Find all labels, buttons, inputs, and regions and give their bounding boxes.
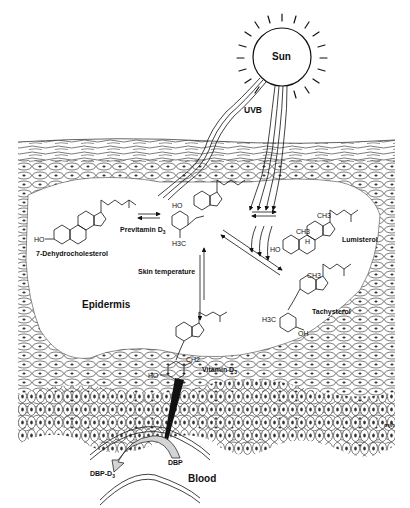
ch3-group-tachysterol: CH3	[307, 272, 321, 279]
previtamin-label: Previtamin D3	[120, 226, 166, 236]
ho-group-7dhc: HO	[34, 236, 45, 243]
dbp-label: DBP	[168, 459, 183, 466]
vitamin-d3-label: Vitamin D3	[202, 366, 237, 376]
dehydrocholesterol-label: 7-Dehydrocholesterol	[36, 250, 108, 257]
uvb-label: UVB	[244, 106, 262, 115]
tachysterol-label: Tachysterol	[312, 308, 351, 315]
epidermis-label: Epidermis	[82, 300, 130, 310]
ho-group-previtamin: HO	[172, 202, 183, 209]
dbp-d3-label: DBP-D3	[90, 470, 115, 480]
h3c-group-tachysterol: H3C	[262, 316, 276, 323]
lumisterol-label: Lumisterol	[342, 236, 378, 243]
h3c-group-previtamin: H3C	[172, 240, 186, 247]
skin-temperature-label: Skin temperature	[138, 268, 195, 275]
ho-group-lumisterol: HO	[270, 246, 281, 253]
ho-group-vitamin: HO	[148, 372, 159, 379]
h-group-lumisterol: H	[305, 238, 310, 245]
blood-label: Blood	[188, 474, 216, 484]
sun-label: Sun	[272, 52, 291, 62]
oh-group-tachysterol: OH	[298, 330, 309, 337]
ch3-group-lumisterol-b: CH3	[317, 212, 331, 219]
ch2-group-vitamin: CH2	[186, 356, 200, 363]
artist-signature: mjh	[384, 422, 395, 428]
ch3-group-lumisterol-a: CH3	[296, 228, 310, 235]
